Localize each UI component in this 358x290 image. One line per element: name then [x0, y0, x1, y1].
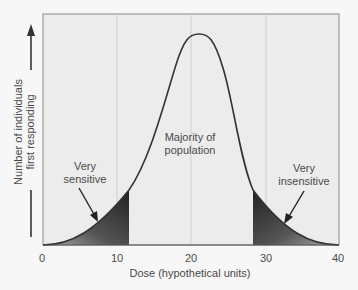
x-axis-label: Dose (hypothetical units) [129, 267, 250, 279]
x-tick-labels: 0 10 20 30 40 [39, 252, 344, 264]
majority-label-line2: population [165, 144, 216, 156]
very-sensitive-label-line1: Very [74, 160, 97, 172]
x-tick-20: 20 [185, 252, 197, 264]
y-axis-label-line1: Number of individuals [12, 79, 24, 185]
y-axis-label: Number of individuals first responding [12, 79, 36, 185]
y-axis-arrow-icon [27, 24, 35, 70]
very-sensitive-label-line2: sensitive [64, 173, 107, 185]
majority-label-line1: Majority of [165, 131, 217, 143]
dose-response-diagram: 0 10 20 30 40 Dose (hypothetical units) … [0, 0, 358, 290]
very-insensitive-label-line1: Very [293, 162, 316, 174]
y-axis-label-line2: first responding [24, 94, 36, 169]
x-tick-0: 0 [39, 252, 45, 264]
x-tick-30: 30 [260, 252, 272, 264]
x-tick-40: 40 [332, 252, 344, 264]
very-insensitive-label-line2: insensitive [278, 175, 329, 187]
x-tick-10: 10 [111, 252, 123, 264]
